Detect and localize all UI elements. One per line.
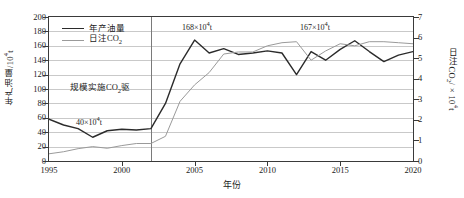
y-axis-left-tick-mark [43,75,48,76]
y-axis-left-tick-mark [43,89,48,90]
y-axis-right-tick-mark [414,120,419,121]
x-axis-tick-mark [122,162,123,166]
annotation-baseline-40: 40×104t [76,115,102,127]
legend-swatch-line-icon [62,40,84,41]
y-axis-right-tick-mark [414,17,419,18]
x-axis-tick-label: 1995 [29,166,69,175]
x-axis-tick-label: 2020 [393,166,433,175]
y-axis-left-tick-mark [43,60,48,61]
x-axis-tick-label: 2010 [247,166,287,175]
annotation-regime-label: 规模实施CO2驱 [70,80,130,94]
legend-swatch-line-icon [62,28,84,29]
y-axis-left-title: 年产油量/104t [2,50,16,105]
y-axis-left-tick-mark [43,103,48,104]
y-axis-left-tick-mark [43,46,48,47]
x-axis-tick-mark [267,162,268,166]
x-axis-tick-mark [340,162,341,166]
y-axis-right-tick-mark [414,58,419,59]
x-axis-tick-label: 2005 [175,166,215,175]
annotation-peak-167: 167×104t [300,20,330,32]
legend-item: 日注CO2 [62,34,125,46]
y-axis-right-tick-mark [414,99,419,100]
y-axis-left-tick-mark [43,132,48,133]
x-axis-tick-label: 2015 [320,166,360,175]
y-axis-right-tick-mark [414,161,419,162]
y-axis-right-title: 日注CO2/×104t [446,48,460,111]
y-axis-right-tick-mark [414,140,419,141]
x-axis-tick-label: 2000 [102,166,142,175]
series-line-co2-injection [49,42,413,154]
legend-item-label: 日注CO2 [89,32,122,48]
annotation-peak-168: 168×104t [182,20,212,32]
y-axis-left-tick-mark [43,17,48,18]
chart-container: 年产油量/104t 日注CO2/×104t 规模实施CO2驱 40×104t 1… [0,0,464,198]
x-axis-title: 年份 [0,178,464,191]
y-axis-right-tick-mark [414,38,419,39]
y-axis-right-tick-mark [414,79,419,80]
y-axis-left-tick-mark [43,31,48,32]
y-axis-left-tick-mark [43,161,48,162]
x-axis-tick-mark [195,162,196,166]
legend: 年产油量日注CO2 [62,22,125,46]
y-axis-left-tick-mark [43,118,48,119]
y-axis-left-tick-mark [43,147,48,148]
